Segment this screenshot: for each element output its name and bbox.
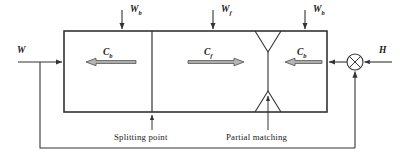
annotation-partial-matching: Partial matching — [226, 133, 287, 142]
diagram-canvas: Wb Wf Wb W H Cb Cf Cb Splitting point Pa… — [0, 0, 400, 165]
label-w-input: W — [17, 46, 25, 56]
label-wb-right: Wb — [313, 5, 325, 16]
diagram-svg — [0, 0, 400, 165]
label-wf-mid: Wf — [221, 5, 232, 16]
label-cf-mid: Cf — [204, 48, 213, 59]
feedback-path — [40, 62, 355, 148]
flow-arrow-cf-mid — [188, 58, 244, 66]
label-cb-right: Cb — [297, 48, 307, 59]
annotation-splitting-point: Splitting point — [114, 133, 168, 142]
summing-junction — [347, 54, 363, 70]
label-cb-left: Cb — [103, 48, 113, 59]
label-wb-left: Wb — [130, 5, 142, 16]
label-h-input: H — [379, 46, 386, 56]
main-box — [64, 31, 327, 112]
